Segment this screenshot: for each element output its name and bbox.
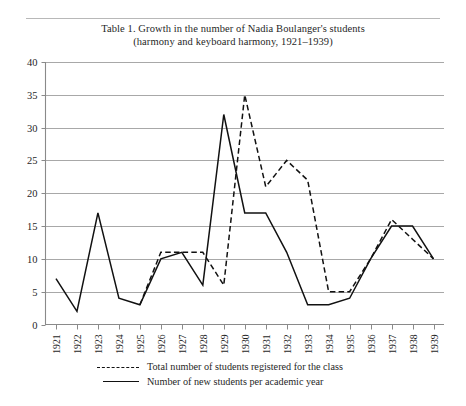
x-tick-label: 1933 <box>303 334 314 353</box>
y-tick-label: 15 <box>27 221 38 232</box>
x-tick-label: 1922 <box>72 334 83 353</box>
legend-label-total: Total number of students registered for … <box>147 360 343 375</box>
line-chart-svg: 0510152025303540 19211922192319241925192… <box>0 0 466 406</box>
y-tick-group <box>42 63 46 326</box>
y-tick-label: 30 <box>27 123 38 134</box>
solid-line-icon <box>95 377 141 387</box>
series-new-students-line <box>56 115 434 312</box>
x-tick-label: 1924 <box>114 334 125 353</box>
x-tick-label: 1925 <box>135 334 146 353</box>
x-tick-label: 1937 <box>387 334 398 353</box>
x-tick-label: 1927 <box>177 334 188 353</box>
chart-plot-area: 0510152025303540 19211922192319241925192… <box>0 0 466 406</box>
y-axis-labels: 0510152025303540 <box>27 57 38 331</box>
x-tick-label: 1930 <box>240 334 251 353</box>
legend-label-new: Number of new students per academic year <box>147 375 324 390</box>
x-tick-label: 1921 <box>51 334 62 353</box>
y-tick-label: 5 <box>32 287 37 298</box>
legend-item-new: Number of new students per academic year <box>95 375 395 390</box>
x-tick-label: 1929 <box>219 334 230 353</box>
x-tick-label: 1938 <box>408 334 419 353</box>
x-tick-label: 1931 <box>261 334 272 353</box>
y-tick-label: 0 <box>32 320 37 331</box>
figure-container: Table 1. Growth in the number of Nadia B… <box>0 0 466 406</box>
x-tick-label: 1936 <box>366 334 377 353</box>
dashed-line-icon <box>95 362 141 372</box>
x-tick-label: 1939 <box>429 334 440 353</box>
x-tick-group <box>57 325 435 330</box>
x-tick-label: 1932 <box>282 334 293 353</box>
y-tick-label: 20 <box>27 188 38 199</box>
legend-item-total: Total number of students registered for … <box>95 360 395 375</box>
x-tick-label: 1928 <box>198 334 209 353</box>
x-tick-label: 1923 <box>93 334 104 353</box>
x-tick-label: 1926 <box>156 334 167 353</box>
series-total-registered-line <box>140 95 434 305</box>
y-tick-label: 35 <box>27 90 38 101</box>
chart-legend: Total number of students registered for … <box>95 360 395 389</box>
y-tick-label: 40 <box>27 57 38 68</box>
y-tick-label: 10 <box>27 254 38 265</box>
x-tick-label: 1934 <box>324 334 335 353</box>
x-tick-label: 1935 <box>345 334 356 353</box>
y-tick-label: 25 <box>27 155 38 166</box>
x-axis-labels: 1921192219231924192519261927192819291930… <box>51 334 440 353</box>
